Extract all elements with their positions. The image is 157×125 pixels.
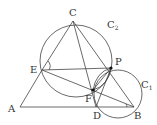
label-point-p: P — [115, 56, 122, 67]
segment-cb — [73, 21, 134, 107]
segment-ep — [42, 68, 111, 70]
label-point-e: E — [30, 64, 37, 75]
label-point-b: B — [134, 110, 141, 121]
angle-mark-e — [48, 61, 50, 70]
segment-ec — [42, 21, 73, 70]
geometry-diagram: CEPFDBAC2C1 — [0, 0, 157, 125]
label-point-a: A — [7, 103, 16, 114]
point-f-dot — [91, 88, 94, 91]
label-point-f: F — [85, 93, 92, 104]
label-circle-c1: C1 — [141, 79, 152, 91]
segment-pd — [96, 68, 111, 107]
label-point-d: D — [93, 110, 101, 121]
segment-ae — [20, 70, 42, 107]
label-point-c: C — [69, 7, 77, 18]
segment-pf — [93, 68, 111, 90]
label-circle-c2: C2 — [107, 19, 119, 31]
point-p-dot — [109, 66, 112, 69]
